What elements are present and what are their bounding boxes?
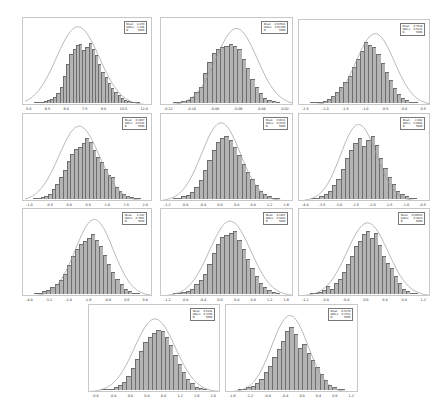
x-tick-label: -3.0 xyxy=(336,203,343,207)
legend-value: 5000 xyxy=(279,125,286,128)
x-axis-ticks: -1.2-0.8-0.40.00.40.81.21.6 xyxy=(160,298,293,302)
x-tick-label: 0.4 xyxy=(144,394,149,398)
x-tick-label: -0.8 xyxy=(92,394,99,398)
x-tick-label: 0.0 xyxy=(299,394,304,398)
legend-value: 5000 xyxy=(138,220,145,223)
legend-value: 5000 xyxy=(206,316,213,319)
x-tick-label: -0.8 xyxy=(322,298,329,302)
x-tick-label: -0.8 xyxy=(182,203,189,207)
legend-row: N5000 xyxy=(125,220,145,223)
x-tick-label: 0.4 xyxy=(382,298,387,302)
x-tick-label: -1.2 xyxy=(164,203,171,207)
legend-value: 5000 xyxy=(138,125,145,128)
x-tick-label: -0.08 xyxy=(210,107,219,111)
histogram-panel-10: Mean0.5343StDev0.3356N5000-0.8-0.40.00.4… xyxy=(88,304,220,400)
legend-value: 5000 xyxy=(279,29,286,32)
x-tick-label: 0.0 xyxy=(363,298,368,302)
stats-legend: Mean-0.06652StDev0.3813N5000 xyxy=(398,212,425,225)
plot-area: Mean0.1967StDev0.5342N5000 xyxy=(22,113,152,201)
x-axis-ticks: -2.5-2.0-1.5-1.0-0.50.00.5 xyxy=(298,107,430,111)
x-tick-label: -2.4 xyxy=(65,298,72,302)
histogram-panel-4: Mean0.1967StDev0.5342N5000-1.0-0.50.00.5… xyxy=(22,113,152,209)
x-tick-label: -0.4 xyxy=(110,394,117,398)
x-tick-label: -1.2 xyxy=(302,298,309,302)
x-axis-ticks: -1.6-1.2-0.8-0.40.00.40.81.2 xyxy=(225,394,358,398)
histogram-panel-3: Mean-0.7638StDev0.5131N5000-2.5-2.0-1.5-… xyxy=(298,19,430,113)
x-tick-label: 2.0 xyxy=(143,203,148,207)
x-axis-ticks: -1.2-0.8-0.40.00.40.81.2 xyxy=(298,298,430,302)
legend-row: N5000 xyxy=(193,316,213,319)
x-tick-label: 0.5 xyxy=(421,107,426,111)
plot-area: Mean-0.7638StDev0.5131N5000 xyxy=(298,19,430,105)
x-tick-label: 7.5 xyxy=(82,107,87,111)
x-tick-label: -2.0 xyxy=(369,203,376,207)
x-tick-label: -1.0 xyxy=(362,107,369,111)
x-tick-label: 0.0 xyxy=(402,107,407,111)
x-tick-label: -0.5 xyxy=(382,107,389,111)
stats-legend: Mean0.1967StDev0.5342N5000 xyxy=(122,117,147,130)
x-tick-label: 1.2 xyxy=(421,298,426,302)
legend-value: 5000 xyxy=(416,220,423,223)
x-tick-label: -1.6 xyxy=(229,394,236,398)
legend-value: 5000 xyxy=(344,316,351,319)
x-tick-label: 0.5 xyxy=(85,203,90,207)
x-tick-label: -1.6 xyxy=(85,298,92,302)
legend-row: N5000 xyxy=(126,29,144,32)
histogram-panel-1: Mean8.470StDev1.186N50005.06.56.07.59.01… xyxy=(22,17,152,113)
histogram-panel-2: Mean-0.07013StDev0.01706N5000-0.12-0.10-… xyxy=(160,17,293,113)
x-tick-label: -1.5 xyxy=(342,107,349,111)
legend-value: 5000 xyxy=(138,29,145,32)
x-tick-label: 1.0 xyxy=(105,203,110,207)
x-tick-label: -0.8 xyxy=(264,394,271,398)
legend-label: N xyxy=(403,125,405,128)
stats-legend: Mean0.1467StDev0.4182N5000 xyxy=(263,212,288,225)
stats-legend: Mean-0.5270StDev0.2713N5000 xyxy=(328,308,353,321)
x-axis-ticks: -0.8-0.40.00.40.81.21.62.0 xyxy=(88,394,220,398)
x-tick-label: -0.04 xyxy=(257,107,266,111)
x-tick-label: -0.8 xyxy=(105,298,112,302)
x-tick-label: -0.02 xyxy=(280,107,289,111)
x-tick-label: 0.0 xyxy=(128,394,133,398)
legend-row: N5000 xyxy=(266,125,286,128)
x-tick-label: -0.10 xyxy=(187,107,196,111)
x-tick-label: 0.8 xyxy=(332,394,337,398)
histogram-panel-9: Mean-0.06652StDev0.3813N5000-1.2-0.8-0.4… xyxy=(298,208,430,304)
legend-row: N5000 xyxy=(125,125,145,128)
legend-row: N5000 xyxy=(330,316,350,319)
legend-label: N xyxy=(266,220,268,223)
x-tick-label: -0.8 xyxy=(182,298,189,302)
x-tick-label: 5.0 xyxy=(26,107,31,111)
legend-row: N5000 xyxy=(403,125,423,128)
legend-label: N xyxy=(125,125,127,128)
x-tick-label: 0.4 xyxy=(234,298,239,302)
x-axis-ticks: -1.0-0.50.00.51.01.52.0 xyxy=(22,203,152,207)
stats-legend: Mean-0.7638StDev0.5131N5000 xyxy=(400,23,425,36)
x-tick-label: 0.4 xyxy=(234,203,239,207)
histogram-panel-11: Mean-0.5270StDev0.2713N5000-1.6-1.2-0.8-… xyxy=(225,304,358,400)
legend-row: N5000 xyxy=(401,220,423,223)
x-tick-label: -2.5 xyxy=(352,203,359,207)
x-tick-label: 0.8 xyxy=(401,298,406,302)
legend-label: N xyxy=(126,29,128,32)
x-tick-label: 0.8 xyxy=(250,298,255,302)
legend-label: N xyxy=(401,220,403,223)
x-tick-label: -0.4 xyxy=(343,298,350,302)
legend-label: N xyxy=(264,29,266,32)
histogram-panel-7: Mean-1.347StDev0.7961N5000-4.0-3.2-2.4-1… xyxy=(22,208,152,304)
x-tick-label: 1.5 xyxy=(124,203,129,207)
x-tick-label: 2.0 xyxy=(211,394,216,398)
legend-row: N5000 xyxy=(266,220,286,223)
stats-legend: Mean-0.07013StDev0.01706N5000 xyxy=(261,21,288,34)
x-tick-label: -1.5 xyxy=(386,203,393,207)
plot-area: Mean0.1467StDev0.4182N5000 xyxy=(160,208,293,296)
x-tick-label: 0.0 xyxy=(217,203,222,207)
plot-area: Mean-2.082StDev0.4685N5000 xyxy=(298,113,430,201)
x-tick-label: 0.8 xyxy=(161,394,166,398)
legend-value: 5000 xyxy=(416,125,423,128)
x-tick-label: 10.5 xyxy=(120,107,128,111)
x-tick-label: 1.6 xyxy=(284,298,289,302)
x-tick-label: 12.0 xyxy=(140,107,148,111)
x-tick-label: 1.2 xyxy=(267,298,272,302)
stats-legend: Mean-2.082StDev0.4685N5000 xyxy=(400,117,425,130)
stats-legend: Mean-1.347StDev0.7961N5000 xyxy=(122,212,147,225)
